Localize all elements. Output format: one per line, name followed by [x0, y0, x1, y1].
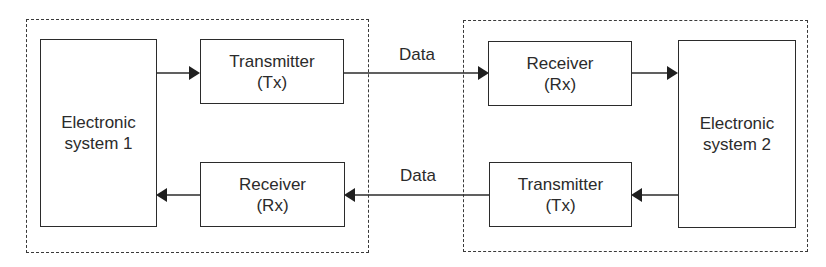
block-label-line2: (Rx) — [544, 74, 576, 95]
data-link-label-bottom: Data — [400, 166, 436, 186]
block-label-line2: (Rx) — [256, 195, 288, 216]
block-label-line2: (Tx) — [545, 195, 575, 216]
block-label-line2: system 1 — [64, 133, 132, 154]
electronic-system-2-block: Electronic system 2 — [678, 40, 796, 228]
block-label-line2: (Tx) — [257, 72, 287, 93]
block-label-line1: Receiver — [239, 174, 306, 195]
transmitter-block-2: Transmitter (Tx) — [489, 162, 632, 227]
block-label-line1: Electronic — [700, 113, 775, 134]
block-label-line1: Transmitter — [229, 51, 314, 72]
communication-diagram: Electronic system 1 Transmitter (Tx) Rec… — [0, 0, 826, 267]
data-link-label-top: Data — [399, 45, 435, 65]
block-label-line2: system 2 — [703, 134, 771, 155]
block-label-line1: Receiver — [526, 53, 593, 74]
electronic-system-1-block: Electronic system 1 — [40, 39, 157, 227]
transmitter-block-1: Transmitter (Tx) — [200, 39, 344, 104]
block-label-line1: Electronic — [61, 112, 136, 133]
block-label-line1: Transmitter — [518, 174, 603, 195]
receiver-block-1: Receiver (Rx) — [200, 162, 345, 227]
receiver-block-2: Receiver (Rx) — [488, 41, 632, 106]
